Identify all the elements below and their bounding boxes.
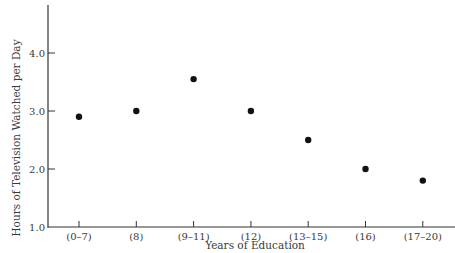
x-axis-title: Years of Education	[204, 239, 305, 251]
y-axis-title: Hours of Television Watched per Day	[10, 39, 22, 236]
y-tick-label: 3.0	[29, 106, 45, 117]
data-point	[248, 108, 254, 114]
x-tick-label: (8)	[129, 231, 143, 242]
data-point	[305, 137, 311, 143]
data-point	[420, 177, 426, 183]
data-point	[133, 108, 139, 114]
data-points	[76, 76, 426, 184]
y-ticks: 1.02.03.04.0	[29, 48, 55, 233]
y-tick-label: 2.0	[29, 164, 45, 175]
data-point	[362, 166, 368, 172]
x-tick-label: (16)	[355, 231, 376, 242]
y-tick-label: 1.0	[29, 222, 45, 233]
y-tick-label: 4.0	[29, 48, 45, 59]
scatter-chart: 1.02.03.04.0 (0–7)(8)(9–11)(12)(13–15)(1…	[0, 0, 455, 253]
axes	[48, 5, 455, 228]
data-point	[190, 76, 196, 82]
x-tick-label: (0–7)	[66, 231, 92, 242]
data-point	[76, 114, 82, 120]
x-tick-label: (17–20)	[404, 231, 442, 242]
